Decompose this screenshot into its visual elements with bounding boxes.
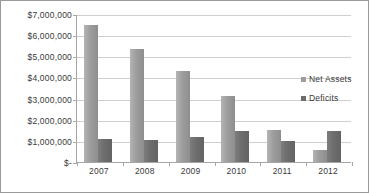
bar-deficits-2009 <box>190 137 204 162</box>
bar-group <box>123 15 169 162</box>
bar-net-assets-2007 <box>84 25 98 162</box>
bar-group <box>77 15 123 162</box>
bar-deficits-2012 <box>327 131 341 162</box>
y-axis-tick <box>73 36 77 37</box>
y-axis-label: $1,000,000 <box>0 137 72 147</box>
bar-net-assets-2012 <box>313 150 327 162</box>
y-axis-label: $4,000,000 <box>0 73 72 83</box>
bar-chart: $-$1,000,000$2,000,000$3,000,000$4,000,0… <box>0 0 369 193</box>
bar-net-assets-2011 <box>267 130 281 162</box>
y-axis-label: $6,000,000 <box>0 31 72 41</box>
bar-deficits-2008 <box>144 140 158 162</box>
y-axis-tick <box>73 121 77 122</box>
y-axis-label: $2,000,000 <box>0 116 72 126</box>
y-axis-tick <box>73 57 77 58</box>
y-axis-label: $5,000,000 <box>0 52 72 62</box>
bar-net-assets-2010 <box>221 96 235 162</box>
bar-net-assets-2009 <box>176 71 190 162</box>
legend-swatch-icon <box>301 77 306 82</box>
y-axis-label: $7,000,000 <box>0 10 72 20</box>
chart-legend: Net AssetsDeficits <box>301 74 352 103</box>
y-axis-label: $3,000,000 <box>0 95 72 105</box>
bar-deficits-2007 <box>98 139 112 162</box>
x-axis-label-2007: 2007 <box>76 166 122 176</box>
y-axis-label: $- <box>0 158 72 168</box>
y-axis-tick <box>73 163 77 164</box>
legend-item-net-assets: Net Assets <box>301 74 352 84</box>
y-axis-tick <box>73 100 77 101</box>
bar-group <box>169 15 215 162</box>
y-axis-tick <box>73 15 77 16</box>
bar-deficits-2010 <box>235 131 249 162</box>
x-axis-label-2008: 2008 <box>122 166 168 176</box>
x-axis-label-2011: 2011 <box>259 166 305 176</box>
bar-group <box>215 15 261 162</box>
bar-deficits-2011 <box>281 141 295 162</box>
bar-net-assets-2008 <box>130 49 144 162</box>
legend-label: Deficits <box>309 93 338 103</box>
y-axis-tick <box>73 78 77 79</box>
y-axis-tick <box>73 142 77 143</box>
x-axis-label-2010: 2010 <box>214 166 260 176</box>
x-axis-label-2009: 2009 <box>168 166 214 176</box>
legend-swatch-icon <box>301 96 306 101</box>
legend-item-deficits: Deficits <box>301 93 352 103</box>
bar-group <box>260 15 306 162</box>
x-axis-label-2012: 2012 <box>305 166 351 176</box>
legend-label: Net Assets <box>309 74 352 84</box>
x-axis-tick <box>352 162 353 166</box>
